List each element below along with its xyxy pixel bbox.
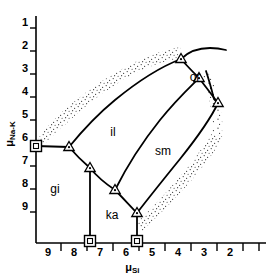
x-tick-label: 4 [175, 246, 182, 258]
y-tick-label: 9 [22, 200, 28, 212]
x-tick-label: 8 [71, 246, 77, 258]
chart-svg: 1 2 3 4 5 6 7 8 9 9 8 7 6 5 [0, 0, 273, 276]
phase-label-il: il [110, 125, 115, 139]
x-tick-label: 7 [97, 246, 103, 258]
axis-square-marker-y [31, 141, 42, 152]
y-tick-label: 8 [22, 177, 28, 189]
axis-boundary-markers [31, 141, 143, 247]
phase-label-gi: gi [50, 182, 59, 196]
uncertainty-band-ka-sm [137, 133, 223, 231]
y-tick-label: 1 [22, 16, 28, 28]
y-tick-labels: 1 2 3 4 5 6 7 8 9 [22, 16, 29, 212]
phase-label-ka: ka [106, 208, 119, 222]
y-tick-label: 4 [22, 85, 29, 97]
phase-label-sm: sm [155, 144, 171, 158]
phase-label-or: or [190, 70, 201, 84]
y-tick-label: 3 [22, 62, 28, 74]
phase-diagram-figure: 1 2 3 4 5 6 7 8 9 9 8 7 6 5 [0, 0, 273, 276]
axis-square-marker-x-left [85, 236, 96, 247]
x-tick-label: 9 [45, 246, 51, 258]
x-tick-label: 6 [123, 246, 129, 258]
y-tick-marks [30, 28, 36, 212]
y-axis-title: μ Na-K [3, 121, 17, 147]
x-axis-title-base: μ [125, 261, 132, 273]
y-tick-label: 7 [22, 154, 28, 166]
x-tick-label: 2 [227, 246, 233, 258]
x-tick-label: 3 [201, 246, 207, 258]
y-axis-title-sub: Na-K [8, 121, 17, 140]
axis-square-marker-x-right [132, 236, 143, 247]
y-tick-label: 5 [22, 108, 28, 120]
y-tick-label: 2 [22, 39, 28, 51]
x-axis-title: μ Si [125, 261, 139, 275]
x-tick-label: 5 [149, 246, 155, 258]
y-axis-title-base: μ [3, 140, 15, 147]
y-tick-label: 6 [22, 131, 28, 143]
curve-or-upper-cap [181, 48, 226, 59]
invariant-point-triangle [110, 185, 120, 194]
x-axis-title-sub: Si [132, 266, 140, 275]
